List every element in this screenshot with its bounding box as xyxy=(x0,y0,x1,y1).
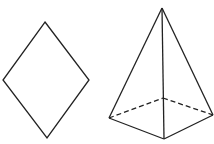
pyramid-base-front-right xyxy=(164,115,213,139)
rhombus-outline xyxy=(3,22,89,138)
square-pyramid xyxy=(109,8,213,139)
pyramid-edge-front xyxy=(162,8,164,139)
geometry-diagram xyxy=(0,0,214,144)
rhombus xyxy=(3,22,89,138)
pyramid-base-front-left xyxy=(109,118,164,139)
pyramid-edge-right xyxy=(162,8,213,115)
pyramid-edge-left xyxy=(109,8,162,118)
